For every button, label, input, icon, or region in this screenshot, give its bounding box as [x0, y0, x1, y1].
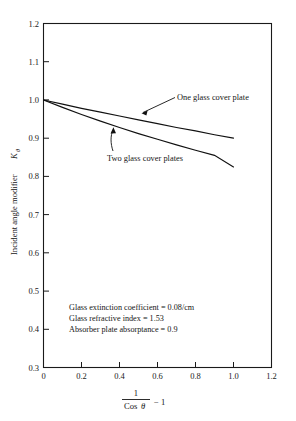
y-tick-label: 0.4 — [28, 324, 39, 334]
y-tick-label: 1.1 — [28, 57, 39, 67]
x-tick-label: 0 — [41, 371, 45, 381]
x-tick-label: 0.8 — [190, 371, 201, 381]
y-tick-label: 0.9 — [28, 133, 39, 143]
y-tick-label: 0.8 — [28, 171, 39, 181]
y-tick-label: 0.3 — [28, 363, 39, 373]
x-tick-label: 0.4 — [114, 371, 125, 381]
y-tick-label: 0.6 — [28, 248, 39, 258]
y-tick-label: 1.2 — [28, 19, 39, 29]
x-axis-denominator-word: Cos — [124, 401, 138, 411]
x-tick-label: 0.2 — [76, 371, 87, 381]
y-axis-title-subscript: θ — [14, 149, 21, 152]
x-axis-suffix: − 1 — [154, 397, 165, 407]
figure-container: 0.3 0.4 0.5 0.6 0.7 0.8 0.9 1.0 1.1 1.2 … — [0, 0, 296, 421]
series-two-label: Two glass cover plates — [107, 154, 183, 163]
x-axis-numerator: 1 — [134, 388, 138, 398]
y-tick-label: 1.0 — [28, 95, 39, 105]
x-tick-label: 0.6 — [152, 371, 163, 381]
annotation-line-3: Absorber plate absorptance = 0.9 — [69, 325, 178, 334]
incident-angle-modifier-chart: 0.3 0.4 0.5 0.6 0.7 0.8 0.9 1.0 1.1 1.2 … — [0, 0, 296, 421]
annotation-line-2: Glass refractive index = 1.53 — [69, 314, 164, 323]
series-one-label: One glass cover plate — [177, 93, 249, 102]
y-axis-title-main: Incident angle modifier — [9, 174, 19, 255]
x-tick-label: 1.2 — [266, 371, 277, 381]
x-tick-label: 1.0 — [228, 371, 239, 381]
y-tick-label: 0.7 — [28, 210, 39, 220]
chart-background — [0, 0, 296, 421]
annotation-line-1: Glass extinction coefficient = 0.08/cm — [69, 303, 195, 312]
y-tick-label: 0.5 — [28, 286, 39, 296]
